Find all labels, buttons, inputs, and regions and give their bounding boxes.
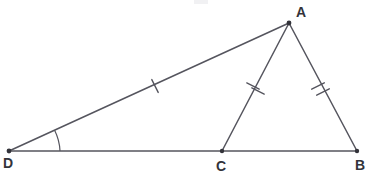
vertex-label-C: C bbox=[216, 158, 226, 174]
vertex-dot-C bbox=[220, 149, 224, 153]
segment-AB bbox=[289, 23, 357, 151]
angle-arc-D bbox=[55, 130, 60, 151]
vertex-dot-A bbox=[287, 21, 292, 26]
vertex-dot-B bbox=[355, 149, 359, 153]
vertex-label-A: A bbox=[296, 4, 306, 20]
scan-artifact bbox=[194, 0, 208, 4]
vertex-label-B: B bbox=[355, 157, 365, 173]
segment-DA bbox=[9, 23, 289, 151]
vertex-dot-D bbox=[7, 149, 12, 154]
geometry-canvas: A B C D bbox=[0, 0, 376, 182]
geometry-figure: A B C D bbox=[0, 0, 376, 182]
vertex-label-D: D bbox=[3, 155, 13, 171]
